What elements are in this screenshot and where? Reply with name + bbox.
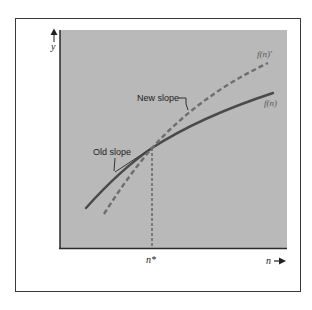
new-slope-label: New slope <box>137 93 179 103</box>
y-axis-arrow-icon <box>51 29 58 43</box>
slope-diagram: y n n* f(n)' f(n) New slope Old slope <box>0 0 312 310</box>
x-axis-label: n <box>266 255 271 266</box>
x-axis-arrow-icon <box>274 258 286 265</box>
curve-label-f-n-prime: f(n)' <box>257 49 273 59</box>
y-axis-label: y <box>50 41 56 52</box>
old-slope-label: Old slope <box>93 147 131 157</box>
curve-label-f-n: f(n) <box>264 98 277 108</box>
plot-panel <box>60 30 287 248</box>
n-star-label: n* <box>146 254 156 265</box>
